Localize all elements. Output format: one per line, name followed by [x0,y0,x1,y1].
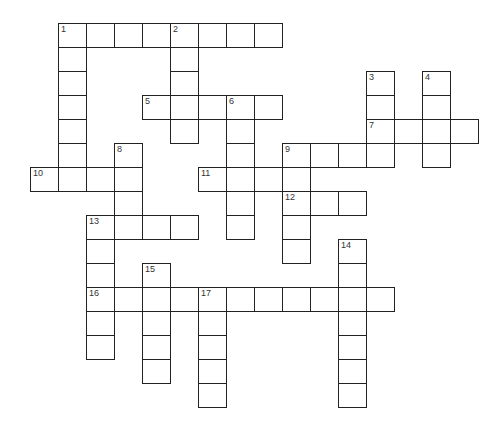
cell-letter-input[interactable] [171,220,198,239]
crossword-cell[interactable] [394,119,423,144]
cell-letter-input[interactable] [87,28,114,47]
crossword-cell[interactable] [338,335,367,360]
crossword-cell[interactable] [450,119,479,144]
cell-letter-input[interactable] [395,124,422,143]
cell-letter-input[interactable] [171,292,198,311]
crossword-cell[interactable] [282,215,311,240]
crossword-cell[interactable] [58,71,87,96]
crossword-cell[interactable] [198,359,227,384]
cell-letter-input[interactable] [283,148,310,167]
crossword-cell[interactable] [86,167,115,192]
crossword-cell[interactable]: 7 [366,119,395,144]
crossword-cell[interactable]: 6 [226,95,255,120]
crossword-cell[interactable]: 8 [114,143,143,168]
crossword-cell[interactable] [170,287,199,312]
cell-letter-input[interactable] [339,148,366,167]
cell-letter-input[interactable] [59,28,86,47]
cell-letter-input[interactable] [87,340,114,359]
crossword-cell[interactable] [338,287,367,312]
cell-letter-input[interactable] [143,220,170,239]
cell-letter-input[interactable] [87,172,114,191]
cell-letter-input[interactable] [115,28,142,47]
cell-letter-input[interactable] [423,100,450,119]
cell-letter-input[interactable] [59,100,86,119]
cell-letter-input[interactable] [227,172,254,191]
crossword-cell[interactable] [58,95,87,120]
cell-letter-input[interactable] [339,340,366,359]
cell-letter-input[interactable] [143,316,170,335]
crossword-cell[interactable] [366,143,395,168]
crossword-cell[interactable] [422,143,451,168]
cell-letter-input[interactable] [283,220,310,239]
cell-letter-input[interactable] [199,364,226,383]
crossword-cell[interactable] [198,95,227,120]
cell-letter-input[interactable] [339,196,366,215]
cell-letter-input[interactable] [367,100,394,119]
crossword-cell[interactable] [198,311,227,336]
crossword-cell[interactable] [422,119,451,144]
cell-letter-input[interactable] [143,364,170,383]
cell-letter-input[interactable] [59,148,86,167]
cell-letter-input[interactable] [199,172,226,191]
cell-letter-input[interactable] [87,244,114,263]
cell-letter-input[interactable] [59,76,86,95]
crossword-cell[interactable]: 3 [366,71,395,96]
cell-letter-input[interactable] [227,28,254,47]
crossword-cell[interactable] [226,23,255,48]
crossword-cell[interactable] [170,119,199,144]
cell-letter-input[interactable] [143,340,170,359]
crossword-cell[interactable]: 12 [282,191,311,216]
crossword-cell[interactable] [142,359,171,384]
crossword-cell[interactable] [226,119,255,144]
cell-letter-input[interactable] [59,124,86,143]
crossword-cell[interactable] [142,215,171,240]
cell-letter-input[interactable] [227,196,254,215]
cell-letter-input[interactable] [423,124,450,143]
crossword-cell[interactable] [198,335,227,360]
crossword-cell[interactable] [254,95,283,120]
crossword-cell[interactable] [114,215,143,240]
cell-letter-input[interactable] [171,100,198,119]
cell-letter-input[interactable] [115,148,142,167]
crossword-cell[interactable] [86,263,115,288]
crossword-cell[interactable] [366,95,395,120]
crossword-cell[interactable] [58,167,87,192]
crossword-cell[interactable] [226,143,255,168]
cell-letter-input[interactable] [283,244,310,263]
cell-letter-input[interactable] [115,292,142,311]
cell-letter-input[interactable] [199,292,226,311]
cell-letter-input[interactable] [115,220,142,239]
cell-letter-input[interactable] [87,292,114,311]
crossword-cell[interactable] [86,311,115,336]
crossword-cell[interactable] [142,311,171,336]
crossword-cell[interactable] [338,383,367,408]
crossword-cell[interactable] [86,335,115,360]
cell-letter-input[interactable] [367,148,394,167]
cell-letter-input[interactable] [339,364,366,383]
crossword-cell[interactable] [226,167,255,192]
crossword-cell[interactable] [58,119,87,144]
crossword-cell[interactable] [310,191,339,216]
crossword-cell[interactable] [170,71,199,96]
crossword-cell[interactable] [142,287,171,312]
cell-letter-input[interactable] [339,292,366,311]
cell-letter-input[interactable] [339,388,366,407]
cell-letter-input[interactable] [367,76,394,95]
crossword-cell[interactable] [58,143,87,168]
crossword-cell[interactable]: 16 [86,287,115,312]
cell-letter-input[interactable] [87,316,114,335]
cell-letter-input[interactable] [283,172,310,191]
crossword-cell[interactable] [310,143,339,168]
cell-letter-input[interactable] [87,220,114,239]
cell-letter-input[interactable] [115,196,142,215]
cell-letter-input[interactable] [59,172,86,191]
cell-letter-input[interactable] [199,100,226,119]
cell-letter-input[interactable] [255,292,282,311]
cell-letter-input[interactable] [255,28,282,47]
cell-letter-input[interactable] [171,28,198,47]
cell-letter-input[interactable] [255,100,282,119]
crossword-cell[interactable]: 2 [170,23,199,48]
crossword-cell[interactable]: 15 [142,263,171,288]
cell-letter-input[interactable] [143,268,170,287]
crossword-cell[interactable] [338,143,367,168]
